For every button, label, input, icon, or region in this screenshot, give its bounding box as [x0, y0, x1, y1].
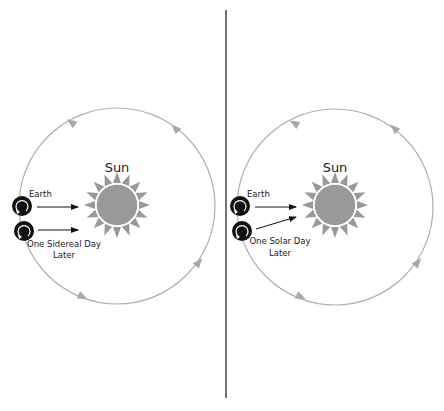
later-label-line1: One Solar Day [249, 236, 310, 246]
orbit-direction-arrow-icon [77, 291, 89, 302]
earth-icon [230, 196, 250, 216]
later-label-line1: One Sidereal Day [27, 239, 101, 249]
sun-label: Sun [323, 160, 348, 175]
earth-label: Earth [29, 189, 52, 199]
later-label-line2: Later [269, 248, 292, 258]
sun-label: Sun [105, 160, 130, 175]
solar-panel: Sun Earth One Solar Day Later [230, 109, 433, 305]
earth-label: Earth [247, 189, 270, 199]
sidereal-panel: Sun Earth One Sidereal Day Later [12, 108, 215, 304]
orbit-direction-arrow-icon [288, 117, 301, 129]
earth-icon [12, 196, 32, 216]
sidereal-vs-solar-day-diagram: Sun Earth One Sidereal Day Later Sun Ear… [0, 0, 444, 411]
sun-icon [84, 172, 150, 238]
sun-icon [302, 172, 368, 238]
later-label-line2: Later [53, 250, 76, 260]
earth-later-icon [14, 221, 34, 241]
sun-direction-later-arrow [256, 217, 296, 229]
